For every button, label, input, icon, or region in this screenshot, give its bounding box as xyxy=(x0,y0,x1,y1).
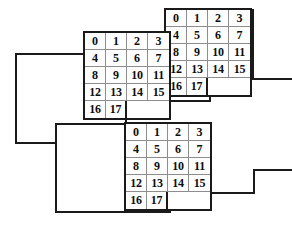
table-row: 4 5 6 7 xyxy=(85,50,169,67)
cell: 0 xyxy=(85,33,106,50)
cell: 5 xyxy=(187,27,208,44)
cell: 9 xyxy=(147,158,168,175)
cell: 3 xyxy=(229,10,250,27)
cell: 16 xyxy=(85,101,106,118)
cell: 6 xyxy=(127,50,148,67)
cell: 1 xyxy=(147,124,168,141)
cell: 1 xyxy=(187,10,208,27)
table-row: 0 1 2 3 xyxy=(166,10,250,27)
cell: 15 xyxy=(189,175,210,192)
cell: 3 xyxy=(148,33,169,50)
table-row: 12 13 14 15 xyxy=(85,84,169,101)
cell: 17 xyxy=(187,78,208,95)
cell: 17 xyxy=(106,101,127,118)
cell: 2 xyxy=(208,10,229,27)
cell: 12 xyxy=(126,175,147,192)
cell: 10 xyxy=(208,44,229,61)
table-row: 16 17 xyxy=(85,101,169,118)
table-row: 16 17 xyxy=(166,78,250,95)
cell: 9 xyxy=(187,44,208,61)
table-row: 8 9 10 11 xyxy=(126,158,210,175)
cell: 11 xyxy=(189,158,210,175)
table-row: 0 1 2 3 xyxy=(85,33,169,50)
cell: 7 xyxy=(189,141,210,158)
table-row: 4 5 6 7 xyxy=(126,141,210,158)
cell: 14 xyxy=(127,84,148,101)
cell: 9 xyxy=(106,67,127,84)
top-grid: 0 1 2 3 4 5 6 7 8 9 10 11 12 13 14 15 16… xyxy=(164,8,252,97)
cell: 16 xyxy=(126,192,147,209)
grid-planes-figure: 0 1 2 3 4 5 6 7 8 9 10 11 12 13 14 15 16… xyxy=(0,0,292,228)
cell: 11 xyxy=(229,44,250,61)
cell: 14 xyxy=(168,175,189,192)
cell: 0 xyxy=(166,10,187,27)
cell: 4 xyxy=(85,50,106,67)
table-row: 0 1 2 3 xyxy=(126,124,210,141)
cell: 6 xyxy=(208,27,229,44)
cell: 0 xyxy=(126,124,147,141)
table-row: 12 13 14 15 xyxy=(166,61,250,78)
cell: 7 xyxy=(148,50,169,67)
cell: 2 xyxy=(168,124,189,141)
cell: 2 xyxy=(127,33,148,50)
table-row: 16 17 xyxy=(126,192,210,209)
cell: 10 xyxy=(168,158,189,175)
cell: 5 xyxy=(147,141,168,158)
middle-grid: 0 1 2 3 4 5 6 7 8 9 10 11 12 13 14 15 16… xyxy=(83,31,171,120)
table-row: 8 9 10 11 xyxy=(85,67,169,84)
cell: 1 xyxy=(106,33,127,50)
table-row: 8 9 10 11 xyxy=(166,44,250,61)
cell: 5 xyxy=(106,50,127,67)
cell: 4 xyxy=(126,141,147,158)
cell: 17 xyxy=(147,192,168,209)
cell: 6 xyxy=(168,141,189,158)
cell: 11 xyxy=(148,67,169,84)
cell: 7 xyxy=(229,27,250,44)
cell: 13 xyxy=(187,61,208,78)
cell: 8 xyxy=(126,158,147,175)
cell: 15 xyxy=(229,61,250,78)
cell: 8 xyxy=(85,67,106,84)
bottom-grid: 0 1 2 3 4 5 6 7 8 9 10 11 12 13 14 15 16… xyxy=(124,122,212,211)
table-row: 4 5 6 7 xyxy=(166,27,250,44)
cell: 13 xyxy=(147,175,168,192)
cell: 3 xyxy=(189,124,210,141)
table-row: 12 13 14 15 xyxy=(126,175,210,192)
cell: 15 xyxy=(148,84,169,101)
cell: 10 xyxy=(127,67,148,84)
cell: 14 xyxy=(208,61,229,78)
cell: 13 xyxy=(106,84,127,101)
cell: 12 xyxy=(85,84,106,101)
